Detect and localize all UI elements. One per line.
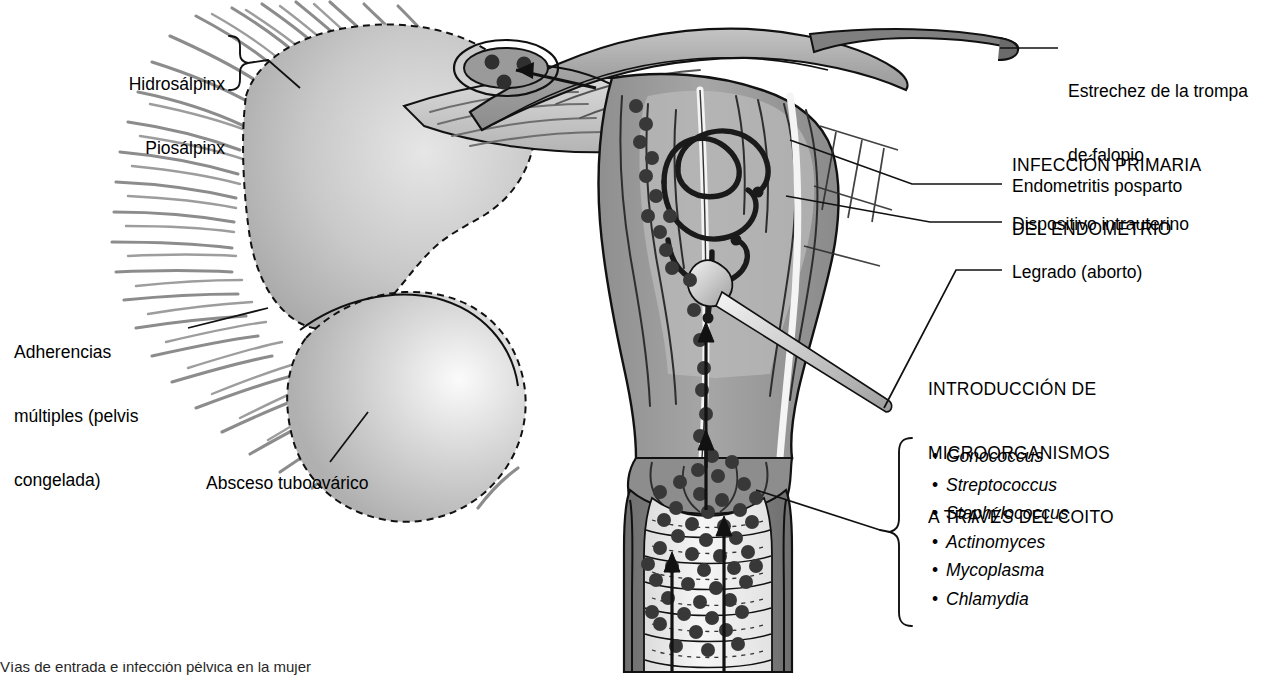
label-hidrosalpinx: Hidrosálpinx <box>40 74 225 95</box>
list-item: Staphylococcus <box>932 499 1069 528</box>
label-endometritis-posparto: Endometritis posparto <box>1012 176 1182 197</box>
leader-adherencias <box>188 308 268 328</box>
figure-caption-clipped: Vías de entrada e infección pélvica en l… <box>0 662 520 675</box>
list-item: Streptococcus <box>932 471 1069 500</box>
label-piosalpinx: Piosálpinx <box>40 138 225 159</box>
brace-organismos <box>880 438 912 626</box>
list-item: Chlamydia <box>932 585 1069 614</box>
list-item: Mycoplasma <box>932 556 1069 585</box>
label-adherencias-multiples: Adherencias múltiples (pelvis congelada) <box>14 299 138 534</box>
heading-infeccion-line1: INFECCIÓN PRIMARIA <box>1012 155 1201 176</box>
utero <box>599 74 899 462</box>
label-absceso-tuboovarico: Absceso tuboovárico <box>206 473 368 494</box>
organism-list: Gonococcus Streptococcus Staphylococcus … <box>932 442 1069 614</box>
label-adherencias-line1: Adherencias <box>14 342 138 363</box>
label-dispositivo-intrauterino: Dispositivo intrauterino <box>1012 214 1189 235</box>
label-hidrosalpinx-group: Hidrosálpinx Piosálpinx <box>40 31 225 202</box>
heading-infeccion-primaria-endometrio: INFECCIÓN PRIMARIA DEL ENDOMETRIO <box>1012 112 1201 283</box>
list-item: Gonococcus <box>932 442 1069 471</box>
list-item: Actinomyces <box>932 528 1069 557</box>
heading-coito-line1: INTRODUCCIÓN DE <box>928 379 1114 400</box>
label-adherencias-line3: congelada) <box>14 470 138 491</box>
label-legrado-aborto: Legrado (aborto) <box>1012 262 1142 283</box>
label-estrechez-line1: Estrechez de la trompa <box>1068 81 1248 102</box>
figure-caption-text: Vías de entrada e infección pélvica en l… <box>0 662 520 675</box>
label-adherencias-line2: múltiples (pelvis <box>14 406 138 427</box>
figure-canvas: Hidrosálpinx Piosálpinx Adherencias múlt… <box>0 0 1264 675</box>
